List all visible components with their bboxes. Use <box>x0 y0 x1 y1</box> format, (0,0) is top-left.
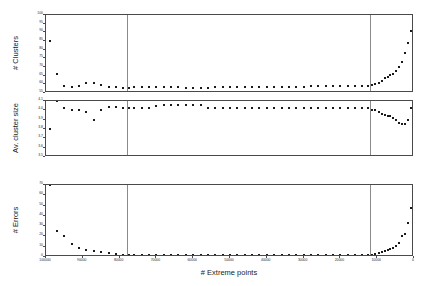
panel-avg_cluster_size: 3.53.63.73.83.94.04.1Av. cluster size <box>45 100 413 156</box>
data-point <box>332 107 334 109</box>
data-point <box>141 107 143 109</box>
x-tick-label: 60000 <box>187 259 196 262</box>
y-tick-label: 85 <box>39 38 43 41</box>
data-point <box>410 30 412 32</box>
y-tick-label: 65 <box>39 73 43 76</box>
y-tick-mark <box>43 215 45 216</box>
data-point <box>404 233 406 235</box>
reference-line-2-errors <box>370 185 371 255</box>
data-point <box>389 74 391 76</box>
data-point <box>398 122 400 124</box>
y-tick-label: 90 <box>39 30 43 33</box>
data-point <box>185 254 187 256</box>
data-point <box>222 107 224 109</box>
data-point <box>49 40 51 42</box>
data-point <box>185 87 187 89</box>
data-point <box>407 42 409 44</box>
data-point <box>155 105 157 107</box>
data-point <box>288 254 290 256</box>
y-tick-mark <box>43 66 45 67</box>
y-tick-mark <box>43 137 45 138</box>
data-point <box>317 254 319 256</box>
data-point <box>93 250 95 252</box>
data-point <box>108 86 110 88</box>
y-tick-mark <box>43 49 45 50</box>
data-point <box>108 252 110 254</box>
data-point <box>387 76 389 78</box>
data-point <box>387 115 389 117</box>
data-point <box>407 119 409 121</box>
x-tick-label: 0 <box>412 259 414 262</box>
data-point <box>148 254 150 256</box>
data-point <box>401 235 403 237</box>
data-point <box>347 85 349 87</box>
data-point <box>122 254 124 256</box>
data-point <box>56 73 58 75</box>
data-point <box>141 86 143 88</box>
y-tick-label: 4.0 <box>38 108 43 111</box>
y-tick-mark <box>43 40 45 41</box>
data-point <box>185 104 187 106</box>
data-point <box>347 254 349 256</box>
y-tick-mark <box>43 246 45 247</box>
data-point <box>303 107 305 109</box>
data-point <box>63 235 65 237</box>
y-tick-label: 30 <box>39 223 43 226</box>
data-point <box>404 52 406 54</box>
panel-clusters: 556065707580859095100# Clusters <box>45 14 413 92</box>
y-tick-mark <box>43 119 45 120</box>
data-point <box>398 242 400 244</box>
data-point <box>371 254 373 256</box>
data-point <box>214 254 216 256</box>
data-point <box>244 107 246 109</box>
data-point <box>222 86 224 88</box>
y-tick-label: 10 <box>39 244 43 247</box>
data-point <box>163 254 165 256</box>
data-point <box>361 85 363 87</box>
data-point <box>412 196 413 198</box>
data-point <box>384 250 386 252</box>
plot-area-clusters <box>45 14 413 92</box>
data-point <box>85 111 87 113</box>
data-point <box>148 86 150 88</box>
data-point <box>71 109 73 111</box>
data-point <box>325 254 327 256</box>
data-point <box>100 84 102 86</box>
y-axis-label-errors: # Errors <box>11 207 20 234</box>
y-tick-label: 3.5 <box>38 154 43 157</box>
y-axis-label-clusters: # Clusters <box>11 36 20 70</box>
data-point <box>170 86 172 88</box>
data-point <box>163 104 165 106</box>
y-tick-mark <box>43 109 45 110</box>
data-point <box>258 107 260 109</box>
x-tick-label: 50000 <box>224 259 233 262</box>
data-point <box>410 207 412 209</box>
y-tick-mark <box>43 83 45 84</box>
data-point <box>85 249 87 251</box>
data-point <box>258 254 260 256</box>
y-tick-label: 75 <box>39 56 43 59</box>
data-point <box>49 128 51 130</box>
data-point <box>381 251 383 253</box>
y-tick-mark <box>43 235 45 236</box>
data-point <box>128 87 130 89</box>
data-point <box>401 61 403 63</box>
data-point <box>128 107 130 109</box>
y-tick-label: 70 <box>39 182 43 185</box>
data-point <box>407 222 409 224</box>
y-tick-label: 60 <box>39 82 43 85</box>
x-tick-label: 80000 <box>114 259 123 262</box>
data-point <box>384 114 386 116</box>
x-tick-label: 90000 <box>77 259 86 262</box>
data-point <box>100 109 102 111</box>
panel-errors: 010203040506070# Errors10000090000800007… <box>45 184 413 256</box>
data-point <box>78 85 80 87</box>
y-tick-mark <box>43 92 45 93</box>
plot-area-errors <box>45 184 413 256</box>
data-point <box>222 254 224 256</box>
data-point <box>317 85 319 87</box>
data-point <box>207 87 209 89</box>
y-tick-mark <box>43 100 45 101</box>
data-point <box>56 100 58 102</box>
y-tick-label: 20 <box>39 234 43 237</box>
